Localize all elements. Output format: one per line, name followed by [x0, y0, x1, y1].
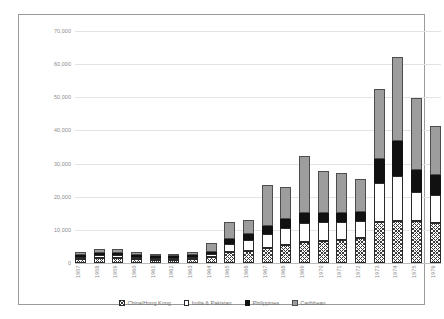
segment-china-hong-kong[interactable]: [299, 242, 310, 263]
bar-column[interactable]: [206, 31, 217, 263]
x-axis-tick-label: 1972: [355, 265, 366, 295]
segment-india-pakistan[interactable]: [355, 221, 366, 238]
bar-column[interactable]: [392, 31, 403, 263]
segment-caribbean[interactable]: [392, 57, 403, 141]
segment-india-pakistan[interactable]: [374, 183, 385, 222]
plot-area: [75, 31, 441, 263]
x-axis-tick-label: 1961: [150, 265, 161, 295]
legend-item[interactable]: China/Hong Kong: [119, 300, 170, 306]
bar-series-container: [75, 31, 441, 263]
segment-china-hong-kong[interactable]: [150, 260, 161, 263]
caribbean-swatch-icon: [292, 300, 298, 306]
bar-column[interactable]: [374, 31, 385, 263]
segment-philippines[interactable]: [262, 226, 273, 234]
segment-caribbean[interactable]: [206, 243, 217, 252]
segment-china-hong-kong[interactable]: [112, 258, 123, 263]
bar-column[interactable]: [75, 31, 86, 263]
segment-china-hong-kong[interactable]: [75, 259, 86, 263]
segment-china-hong-kong[interactable]: [374, 222, 385, 263]
bar-column[interactable]: [299, 31, 310, 263]
x-axis-tick-label: 1976: [430, 265, 441, 295]
x-axis-tick-label: 1974: [392, 265, 403, 295]
segment-caribbean[interactable]: [318, 171, 329, 213]
bar-column[interactable]: [318, 31, 329, 263]
legend-item[interactable]: Philippines: [245, 300, 280, 306]
segment-china-hong-kong[interactable]: [187, 259, 198, 263]
bar-column[interactable]: [168, 31, 179, 263]
bar-column[interactable]: [94, 31, 105, 263]
y-axis-tick-label: 0: [68, 260, 71, 266]
x-axis-line: [75, 263, 441, 264]
segment-india-pakistan[interactable]: [411, 192, 422, 221]
segment-philippines[interactable]: [243, 234, 254, 241]
segment-caribbean[interactable]: [336, 173, 347, 213]
segment-china-hong-kong[interactable]: [224, 252, 235, 263]
segment-china-hong-kong[interactable]: [131, 259, 142, 263]
x-axis-tick-label: 1957: [75, 265, 86, 295]
segment-china-hong-kong[interactable]: [280, 245, 291, 263]
segment-philippines[interactable]: [336, 213, 347, 222]
segment-india-pakistan[interactable]: [280, 228, 291, 246]
segment-china-hong-kong[interactable]: [243, 251, 254, 263]
segment-philippines[interactable]: [299, 213, 310, 223]
bar-column[interactable]: [224, 31, 235, 263]
y-axis-tick-label: 40,000: [54, 127, 71, 133]
segment-india-pakistan[interactable]: [243, 240, 254, 251]
legend-label: India & Pakistan: [192, 300, 232, 306]
segment-philippines[interactable]: [392, 141, 403, 176]
segment-caribbean[interactable]: [299, 156, 310, 213]
segment-india-pakistan[interactable]: [224, 244, 235, 253]
segment-philippines[interactable]: [430, 175, 441, 195]
segment-india-pakistan[interactable]: [336, 222, 347, 240]
bar-column[interactable]: [336, 31, 347, 263]
segment-india-pakistan[interactable]: [318, 222, 329, 241]
segment-india-pakistan[interactable]: [430, 195, 441, 222]
x-axis-tick-label: 1964: [206, 265, 217, 295]
y-axis-tick-label: 70,000: [54, 28, 71, 34]
legend-item[interactable]: Caribbean: [292, 300, 325, 306]
segment-china-hong-kong[interactable]: [168, 260, 179, 263]
y-axis-tick-label: 50,000: [54, 94, 71, 100]
bar-column[interactable]: [411, 31, 422, 263]
bar-column[interactable]: [150, 31, 161, 263]
segment-philippines[interactable]: [318, 213, 329, 222]
bar-column[interactable]: [131, 31, 142, 263]
segment-china-hong-kong[interactable]: [318, 241, 329, 263]
x-axis-tick-label: 1966: [243, 265, 254, 295]
chart-frame: 010,00020,00030,00040,00050,00060,00070,…: [18, 14, 425, 305]
segment-china-hong-kong[interactable]: [411, 221, 422, 263]
bar-column[interactable]: [262, 31, 273, 263]
bar-column[interactable]: [243, 31, 254, 263]
segment-caribbean[interactable]: [430, 126, 441, 176]
segment-caribbean[interactable]: [411, 98, 422, 170]
segment-philippines[interactable]: [374, 159, 385, 183]
segment-philippines[interactable]: [411, 170, 422, 192]
segment-china-hong-kong[interactable]: [94, 258, 105, 263]
bar-column[interactable]: [187, 31, 198, 263]
legend-item[interactable]: India & Pakistan: [184, 300, 232, 306]
segment-china-hong-kong[interactable]: [392, 221, 403, 263]
segment-india-pakistan[interactable]: [392, 176, 403, 221]
segment-caribbean[interactable]: [224, 222, 235, 239]
segment-india-pakistan[interactable]: [262, 234, 273, 249]
segment-china-hong-kong[interactable]: [430, 223, 441, 263]
segment-caribbean[interactable]: [374, 89, 385, 159]
bar-column[interactable]: [430, 31, 441, 263]
legend-label: Philippines: [253, 300, 280, 306]
segment-philippines[interactable]: [280, 219, 291, 228]
segment-caribbean[interactable]: [262, 185, 273, 226]
segment-india-pakistan[interactable]: [299, 223, 310, 242]
segment-china-hong-kong[interactable]: [206, 257, 217, 263]
bar-column[interactable]: [355, 31, 366, 263]
segment-caribbean[interactable]: [280, 187, 291, 218]
bar-column[interactable]: [280, 31, 291, 263]
segment-caribbean[interactable]: [243, 220, 254, 234]
x-axis-tick-label: 1963: [187, 265, 198, 295]
segment-philippines[interactable]: [355, 212, 366, 221]
x-axis-tick-label: 1965: [224, 265, 235, 295]
segment-china-hong-kong[interactable]: [355, 238, 366, 263]
bar-column[interactable]: [112, 31, 123, 263]
segment-china-hong-kong[interactable]: [336, 240, 347, 263]
segment-china-hong-kong[interactable]: [262, 248, 273, 263]
segment-caribbean[interactable]: [355, 179, 366, 212]
